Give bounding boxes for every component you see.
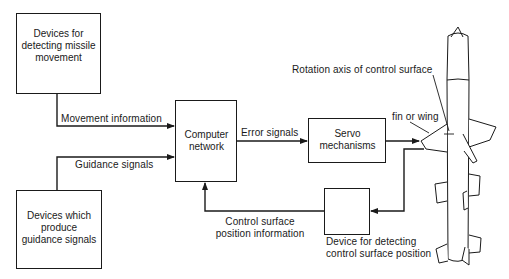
computer-line2: network bbox=[185, 141, 229, 153]
guidance-producer-line1: Devices which bbox=[22, 210, 97, 222]
movement-detector-line3: movement bbox=[22, 52, 96, 64]
fin-leader bbox=[410, 122, 429, 133]
movement-detector-line2: detecting missile bbox=[22, 40, 96, 52]
fin-to-detector-arrow bbox=[371, 149, 424, 211]
error-signals-label: Error signals bbox=[241, 127, 298, 139]
computer-line1: Computer bbox=[185, 129, 229, 141]
guidance-signals-label: Guidance signals bbox=[75, 159, 153, 171]
fin-callout: fin or wing bbox=[392, 111, 439, 123]
feedback-line1: Control surface bbox=[210, 216, 310, 228]
feedback-arrow bbox=[205, 183, 324, 211]
movement-detector-line1: Devices for bbox=[22, 28, 96, 40]
position-detector-line1: Device for detecting bbox=[326, 236, 431, 248]
guidance-producer-line3: guidance signals bbox=[22, 234, 97, 246]
servo-label: Servo mechanisms bbox=[309, 127, 386, 153]
feedback-label: Control surface position information bbox=[210, 216, 310, 240]
computer-network-label: Computer network bbox=[176, 128, 237, 154]
guidance-producer-line2: produce bbox=[22, 222, 97, 234]
movement-detector-label: Devices for detecting missile movement bbox=[16, 26, 101, 66]
guidance-producer-label: Devices which produce guidance signals bbox=[16, 208, 102, 248]
movement-info-label: Movement information bbox=[61, 113, 162, 125]
rotation-axis-callout: Rotation axis of control surface bbox=[292, 64, 433, 76]
position-detector-box bbox=[325, 189, 370, 235]
position-detector-line2: control surface position bbox=[326, 248, 431, 260]
servo-line1: Servo bbox=[319, 128, 375, 140]
position-detector-label: Device for detecting control surface pos… bbox=[326, 236, 431, 260]
missile-illustration bbox=[421, 27, 496, 265]
servo-line2: mechanisms bbox=[319, 140, 375, 152]
feedback-line2: position information bbox=[210, 228, 310, 240]
